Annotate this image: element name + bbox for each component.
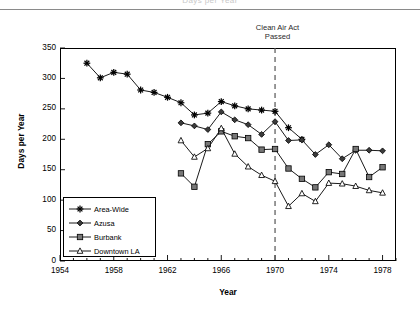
y-tick-label: 350 <box>4 43 56 52</box>
legend-marker-square-icon <box>68 231 92 243</box>
x-tick-label: 1978 <box>363 266 403 275</box>
legend-label: Azusa <box>92 219 115 228</box>
x-tick-label: 1966 <box>201 266 241 275</box>
x-tick-label: 1958 <box>94 266 134 275</box>
y-tick-label: 150 <box>4 164 56 173</box>
legend-item[interactable]: Azusa <box>68 216 155 230</box>
legend-label: Burbank <box>92 233 122 242</box>
legend-label: Downtown LA <box>92 247 140 256</box>
y-tick-label: 250 <box>4 103 56 112</box>
y-axis-tick-labels: 050100150200250300350 <box>0 10 56 309</box>
legend-marker-diamond-icon <box>68 217 92 229</box>
x-axis-title: Year <box>60 287 396 297</box>
legend-label: Area-Wide <box>92 205 129 214</box>
x-tick-label: 1974 <box>309 266 349 275</box>
y-tick-label: 50 <box>4 225 56 234</box>
clipped-header-text: Days per Year <box>0 0 420 7</box>
clean-air-act-annotation: Clean Air Act Passed <box>225 23 330 42</box>
y-axis-title: Days per Year <box>16 96 26 186</box>
legend-item[interactable]: Area-Wide <box>68 202 155 216</box>
legend-item[interactable]: Downtown LA <box>68 244 155 258</box>
y-tick-label: 200 <box>4 134 56 143</box>
x-tick-label: 1962 <box>148 266 188 275</box>
annotation-line-1: Clean Air Act <box>225 23 330 32</box>
y-tick-label: 100 <box>4 195 56 204</box>
x-tick-label: 1954 <box>40 266 80 275</box>
chart-legend: Area-WideAzusaBurbankDowntown LA <box>63 197 156 257</box>
annotation-line-2: Passed <box>225 32 330 41</box>
legend-marker-triangle-open-icon <box>68 245 92 257</box>
y-tick-label: 300 <box>4 73 56 82</box>
chart-figure: Clean Air Act Passed 0501001502002503003… <box>0 10 420 309</box>
legend-item[interactable]: Burbank <box>68 230 155 244</box>
y-tick-label: 0 <box>4 256 56 265</box>
x-tick-label: 1970 <box>255 266 295 275</box>
legend-marker-star-icon <box>68 203 92 215</box>
